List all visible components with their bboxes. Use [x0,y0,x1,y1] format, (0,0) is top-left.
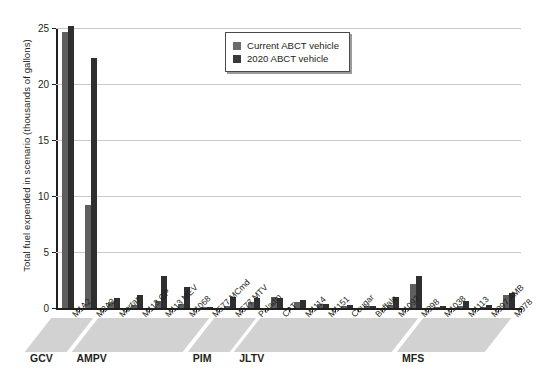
bar [68,26,74,308]
y-tick-label-15: 15 [38,135,49,146]
bar-group [428,28,451,308]
bar [300,300,306,308]
bar-group [475,28,498,308]
legend-label-current: Current ABCT vehicle [247,40,339,51]
bar [370,306,376,308]
y-tick-label-5: 5 [43,247,49,258]
bar-group [451,28,474,308]
bar-group [498,28,521,308]
group-band-ampv [71,318,209,352]
bar-group [172,28,195,308]
bar-group [56,28,79,308]
group-band-jltv [234,318,418,352]
bar-group [196,28,219,308]
y-axis-title: Total fuel expended in scenario (thousan… [21,26,32,286]
fuel-consumption-bar-chart: Total fuel expended in scenario (thousan… [0,0,538,372]
bar-group [405,28,428,308]
bar-group [358,28,381,308]
bar-group [103,28,126,308]
legend-label-2020: 2020 ABCT vehicle [247,53,328,64]
group-bands [30,318,530,354]
bar-group [126,28,149,308]
group-band-label-jltv: JLTV [239,352,264,364]
legend-item-current: Current ABCT vehicle [233,40,339,51]
y-tick-label-25: 25 [38,23,49,34]
bar-group [79,28,102,308]
bar [486,305,492,308]
chart-legend: Current ABCT vehicle 2020 ABCT vehicle [225,32,350,72]
bar-group [149,28,172,308]
group-band-label-mfs: MFS [402,352,424,364]
y-tick-label-20: 20 [38,79,49,90]
y-tick-label-0: 0 [43,303,49,314]
legend-swatch-current-icon [233,42,241,50]
group-band-label-ampv: AMPV [77,352,107,364]
group-band-label-gcv: GCV [30,352,53,364]
y-tick-mark-0 [52,308,56,309]
group-band-label-pim: PIM [193,352,212,364]
bar-group [382,28,405,308]
y-tick-label-10: 10 [38,191,49,202]
legend-swatch-2020-icon [233,55,241,63]
legend-item-2020: 2020 ABCT vehicle [233,53,339,64]
bar [91,58,97,308]
